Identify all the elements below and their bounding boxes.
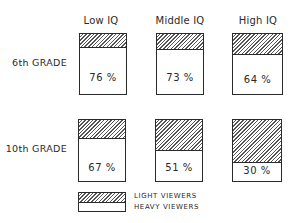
light-viewers-segment (156, 120, 202, 151)
heavy-viewers-percent: 30 % (233, 165, 281, 176)
legend-light-swatch (79, 193, 125, 203)
light-viewers-segment (80, 34, 126, 48)
column-header-low-iq: Low IQ (61, 15, 141, 26)
row-header-10th-grade: 10th GRADE (6, 143, 67, 154)
legend-light-viewers: LIGHT VIEWERS (134, 192, 197, 200)
light-viewers-segment (233, 120, 281, 163)
column-header-middle-iq: Middle IQ (140, 15, 220, 26)
light-viewers-segment (233, 34, 282, 55)
box-6th-high-iq: 64 % (232, 33, 283, 95)
box-10th-high-iq: 30 % (232, 119, 282, 182)
column-header-high-iq: High IQ (218, 15, 294, 26)
box-10th-low-iq: 67 % (78, 119, 126, 182)
legend-heavy-viewers: HEAVY VIEWERS (134, 203, 199, 211)
heavy-viewers-percent: 76 % (80, 72, 126, 83)
row-header-6th-grade: 6th GRADE (12, 57, 67, 68)
heavy-viewers-percent: 67 % (79, 162, 125, 173)
light-viewers-segment (79, 120, 125, 139)
light-viewers-segment (157, 34, 203, 50)
legend-swatch (78, 192, 126, 212)
box-10th-middle-iq: 51 % (155, 119, 203, 182)
box-6th-middle-iq: 73 % (156, 33, 204, 95)
heavy-viewers-percent: 51 % (156, 162, 202, 173)
heavy-viewers-percent: 73 % (157, 72, 203, 83)
heavy-viewers-percent: 64 % (233, 74, 282, 85)
box-6th-low-iq: 76 % (79, 33, 127, 95)
